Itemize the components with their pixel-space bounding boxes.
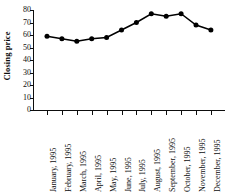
- x-axis-tick-mark: [211, 111, 212, 115]
- x-axis-tick-mark: [181, 111, 182, 115]
- x-axis-tick-mark: [62, 111, 63, 115]
- line-chart-figure: Closing price 80706050403020100 January,…: [0, 0, 228, 195]
- x-axis-tick-label-text: August, 1995: [154, 149, 162, 192]
- data-point-marker: [194, 23, 199, 28]
- data-point-marker: [208, 28, 213, 33]
- data-point-marker: [74, 39, 79, 44]
- x-axis-tick-label-text: February, 1995: [65, 144, 73, 192]
- x-axis-tick-mark: [151, 111, 152, 115]
- x-axis-tick-label-text: September, 1995: [169, 138, 177, 192]
- series-polyline: [47, 14, 211, 42]
- x-axis-tick-mark: [47, 111, 48, 115]
- x-axis-tick-label-text: April, 1995: [95, 155, 103, 192]
- y-axis-tick-mark: [30, 35, 34, 36]
- y-axis-tick-mark: [30, 60, 34, 61]
- x-axis-tick-label-text: December, 1995: [214, 139, 222, 192]
- data-point-marker: [164, 14, 169, 19]
- y-axis-tick-mark: [30, 23, 34, 24]
- x-axis-tick-mark: [122, 111, 123, 115]
- data-point-marker: [179, 11, 184, 16]
- x-axis-tick-mark: [196, 111, 197, 115]
- y-axis-tick-mark: [30, 73, 34, 74]
- x-axis-tick-label-text: November, 1995: [199, 139, 207, 192]
- data-point-marker: [89, 36, 94, 41]
- data-point-marker: [119, 28, 124, 33]
- y-axis-tick-mark: [30, 10, 34, 11]
- y-axis-tick-mark: [30, 85, 34, 86]
- x-axis-tick-mark: [92, 111, 93, 115]
- data-series-line: [33, 10, 225, 111]
- y-axis-title: Closing price: [0, 0, 14, 112]
- x-axis-tick-label: December, 1995: [214, 116, 228, 194]
- data-point-marker: [134, 20, 139, 25]
- x-axis-tick-labels: January, 1995February, 1995March, 1995Ap…: [33, 116, 225, 195]
- y-axis-tick-mark: [30, 110, 34, 111]
- plot-area: [33, 10, 225, 111]
- x-axis-tick-mark: [136, 111, 137, 115]
- x-axis-tick-label-text: June, 1995: [125, 157, 133, 192]
- data-point-marker: [104, 35, 109, 40]
- x-axis-tick-mark: [77, 111, 78, 115]
- data-point-marker: [59, 36, 64, 41]
- x-axis-tick-label-text: October, 1995: [184, 147, 192, 192]
- x-axis-tick-mark: [166, 111, 167, 115]
- x-axis-tick-label-text: July, 1995: [139, 159, 147, 192]
- x-axis-tick-mark: [107, 111, 108, 115]
- x-axis-tick-label-text: March, 1995: [80, 151, 88, 192]
- data-point-marker: [149, 11, 154, 16]
- y-axis-title-text: Closing price: [2, 31, 12, 80]
- y-axis-tick-mark: [30, 48, 34, 49]
- x-axis-tick-label-text: May, 1995: [110, 158, 118, 192]
- x-axis-tick-label-text: January, 1995: [50, 148, 58, 192]
- data-point-marker: [45, 34, 50, 39]
- y-axis-tick-mark: [30, 98, 34, 99]
